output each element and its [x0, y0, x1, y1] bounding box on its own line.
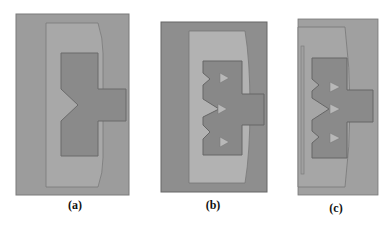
antenna-diagram-c [297, 18, 379, 196]
panel-c [297, 18, 379, 196]
caption-c: (c) [316, 201, 356, 216]
panel-a [15, 13, 130, 196]
antenna-diagram-b [160, 21, 268, 193]
caption-b: (b) [193, 198, 233, 213]
antenna-diagram-a [15, 13, 130, 196]
panel-b [160, 21, 268, 193]
caption-a: (a) [55, 198, 95, 213]
